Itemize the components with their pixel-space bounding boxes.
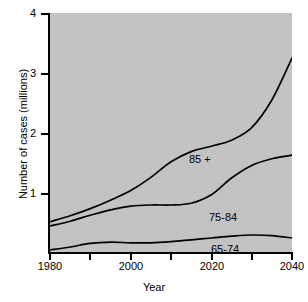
y-axis-tick-4 (41, 13, 49, 15)
series-annotation-85plus: 85 + (189, 153, 211, 165)
x-axis-tick-1990 (89, 253, 91, 260)
line-series-85plus (50, 58, 292, 222)
x-axis-tick-1980 (49, 253, 51, 260)
y-axis-tick-1 (41, 193, 49, 195)
plot-area (50, 13, 292, 253)
x-axis-tick-2000 (130, 253, 132, 260)
x-axis-tick-2010 (170, 253, 172, 260)
y-axis-title: Number of cases (millions) (17, 39, 29, 229)
x-axis-tick-2030 (251, 253, 253, 260)
plot-canvas (50, 13, 292, 253)
x-axis-tick-2040 (291, 253, 293, 260)
series-annotation-75-84: 75-84 (209, 211, 237, 223)
x-axis-label-2020: 2020 (192, 261, 232, 272)
series-annotation-65-74: 65-74 (211, 243, 239, 255)
y-axis-tick-2 (41, 133, 49, 135)
x-axis-label-2000: 2000 (111, 261, 151, 272)
x-axis-title: Year (0, 281, 308, 293)
y-axis-label-4: 4 (22, 8, 36, 19)
y-axis-tick-3 (41, 73, 49, 75)
chart-figure: 4 3 2 1 1980 2000 2020 2040 Number of ca… (0, 0, 308, 302)
x-axis-label-1980: 1980 (30, 261, 70, 272)
line-series-75-84 (50, 155, 292, 226)
line-series-65-74 (50, 235, 292, 250)
x-axis-label-2040: 2040 (272, 261, 308, 272)
